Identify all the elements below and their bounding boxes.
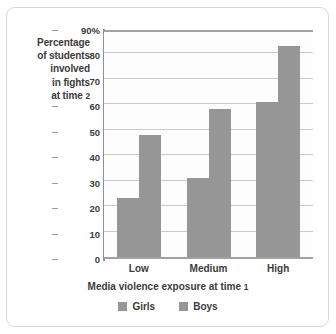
y-tick-label-60: 60 <box>64 101 100 112</box>
y-axis-tick-labels: 0102030405060708090% <box>58 30 100 259</box>
y-tick-mark-10 <box>52 234 58 235</box>
y-tick-mark-70 <box>52 81 58 82</box>
y-tick-mark-20 <box>52 208 58 209</box>
y-tick-mark-0 <box>52 259 58 260</box>
legend-swatch-girls <box>118 302 127 311</box>
x-axis-tick-labels: LowMediumHigh <box>104 263 313 277</box>
y-tick-label-40: 40 <box>64 152 100 163</box>
y-tick-mark-50 <box>52 132 58 133</box>
chart-legend: GirlsBoys <box>0 301 336 312</box>
y-tick-label-20: 20 <box>64 203 100 214</box>
y-tick-label-50: 50 <box>64 126 100 137</box>
chart-figure: Percentage of students involved in fight… <box>0 0 336 334</box>
legend-item-boys[interactable]: Boys <box>179 301 217 312</box>
x-tick-label-medium: Medium <box>190 263 228 274</box>
x-axis-title-text: Media violence exposure at time <box>88 281 244 292</box>
bar-girls-medium <box>187 178 209 257</box>
bar-girls-low <box>117 198 139 257</box>
legend-label-girls: Girls <box>132 301 155 312</box>
bar-boys-medium <box>209 109 231 257</box>
legend-item-girls[interactable]: Girls <box>118 301 155 312</box>
y-tick-label-80: 80 <box>64 50 100 61</box>
y-tick-label-70: 70 <box>64 75 100 86</box>
y-tick-mark-90 <box>52 30 58 31</box>
y-tick-label-0: 0 <box>64 254 100 265</box>
bar-boys-low <box>139 135 161 257</box>
x-axis-title: Media violence exposure at time 1 <box>0 281 336 292</box>
y-tick-label-30: 30 <box>64 177 100 188</box>
y-tick-label-10: 10 <box>64 228 100 239</box>
y-tick-label-90: 90% <box>64 25 100 36</box>
y-tick-mark-30 <box>52 183 58 184</box>
x-tick-label-high: High <box>267 263 289 274</box>
plot-area <box>104 30 313 259</box>
bar-group-container <box>104 32 313 257</box>
x-tick-label-low: Low <box>129 263 149 274</box>
bar-girls-high <box>256 102 278 257</box>
legend-label-boys: Boys <box>193 301 217 312</box>
y-tick-mark-80 <box>52 55 58 56</box>
legend-swatch-boys <box>179 302 188 311</box>
x-axis-title-time-number: 1 <box>244 282 249 292</box>
bar-boys-high <box>278 46 300 257</box>
y-tick-mark-60 <box>52 106 58 107</box>
y-tick-mark-40 <box>52 157 58 158</box>
